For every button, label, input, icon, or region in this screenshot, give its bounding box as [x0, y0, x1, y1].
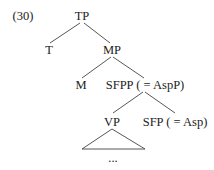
node-vp: VP [104, 115, 120, 129]
node-t: T [45, 43, 53, 57]
node-tp: TP [75, 9, 90, 23]
triangle-vp [82, 129, 145, 149]
example-number: (30) [13, 9, 34, 23]
node-sfp: SFP ( = Asp) [143, 115, 208, 129]
node-sfpp: SFPP ( = AspP) [106, 78, 185, 92]
node-ellipsis: ... [108, 151, 117, 165]
node-m: M [75, 78, 86, 92]
node-mp: MP [103, 43, 121, 57]
